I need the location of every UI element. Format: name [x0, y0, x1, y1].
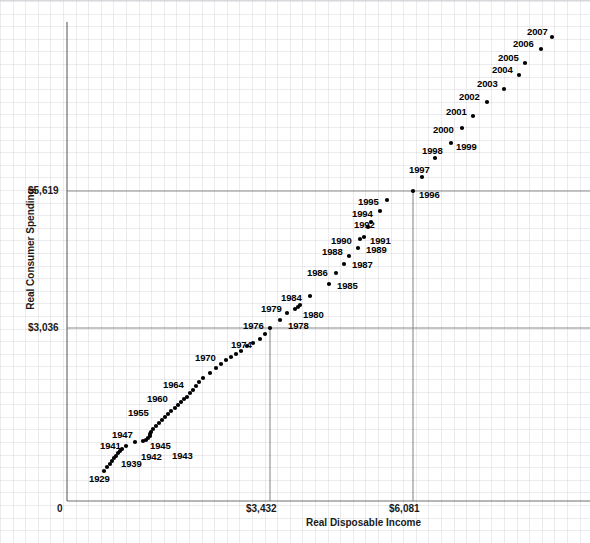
data-point-label: 1984: [281, 293, 302, 303]
data-point: [124, 444, 128, 448]
data-point: [378, 209, 382, 213]
data-point-label: 1942: [141, 452, 162, 462]
data-point-label: 1980: [303, 310, 324, 320]
data-point: [201, 376, 205, 380]
data-point-label: 1964: [163, 380, 184, 390]
data-point-label: 2006: [513, 39, 534, 49]
data-point-label: 1979: [261, 304, 282, 314]
data-point: [356, 246, 360, 250]
data-point: [334, 271, 338, 275]
y-tick-label-3036: $3,036: [28, 323, 59, 333]
data-point: [208, 371, 212, 375]
data-point-label: 1998: [422, 146, 443, 156]
data-point: [471, 114, 475, 118]
data-point: [517, 73, 521, 77]
scatter-chart: 1929193919411942194319451947195519601964…: [0, 0, 590, 543]
data-point-label: 1989: [366, 245, 387, 255]
data-point: [224, 358, 228, 362]
data-point: [308, 294, 312, 298]
data-point: [327, 282, 331, 286]
data-point: [263, 332, 267, 336]
data-point: [550, 35, 554, 39]
data-point-label: 1943: [172, 451, 193, 461]
x-tick-label-6081: $6,081: [389, 504, 420, 514]
data-point-label: 1994: [352, 209, 373, 219]
data-point: [179, 400, 183, 404]
data-point: [285, 311, 289, 315]
data-point-label: 1945: [150, 441, 171, 451]
data-point: [185, 395, 189, 399]
data-point-label: 2005: [498, 53, 519, 63]
x-axis-title: Real Disposable Income: [306, 518, 421, 528]
data-point: [411, 189, 415, 193]
data-point: [502, 87, 506, 91]
data-point-label: 1974: [231, 340, 252, 350]
data-point: [523, 61, 527, 65]
data-point: [160, 418, 164, 422]
data-point-label: 1947: [112, 430, 133, 440]
x-tick-label-origin: 0: [57, 504, 63, 514]
data-point-label: 2007: [527, 27, 548, 37]
data-point-label: 1929: [89, 474, 110, 484]
data-point: [460, 126, 464, 130]
data-point: [362, 235, 366, 239]
data-point: [485, 100, 489, 104]
data-point: [163, 415, 167, 419]
data-point: [105, 465, 109, 469]
data-point-label: 1986: [307, 268, 328, 278]
data-point-label: 2004: [492, 65, 513, 75]
data-point-label: 1978: [288, 321, 309, 331]
data-point: [214, 366, 218, 370]
data-point-label: 1988: [322, 247, 343, 257]
plot-area: [0, 1, 590, 543]
data-point-label: 1997: [409, 165, 430, 175]
data-point: [420, 175, 424, 179]
data-point: [191, 388, 195, 392]
data-point-label: 1955: [128, 408, 149, 418]
data-point: [173, 406, 177, 410]
data-point: [133, 440, 137, 444]
data-point-label: 1991: [370, 236, 391, 246]
data-point: [433, 156, 437, 160]
data-point-label: 1996: [419, 190, 440, 200]
data-point-label: 1941: [100, 441, 121, 451]
axes: [67, 22, 590, 501]
data-point: [229, 355, 233, 359]
data-point: [169, 409, 173, 413]
data-point: [176, 403, 180, 407]
data-point-label: 1970: [195, 353, 216, 363]
data-point: [154, 424, 158, 428]
data-point: [268, 326, 272, 330]
data-point: [539, 47, 543, 51]
data-point: [358, 237, 362, 241]
data-point-label: 2003: [477, 79, 498, 89]
data-point: [188, 391, 192, 395]
data-point: [234, 352, 238, 356]
data-point: [449, 141, 453, 145]
data-point: [157, 421, 161, 425]
data-point: [298, 303, 302, 307]
data-point-label: 1992: [354, 220, 375, 230]
x-tick-label-3432: $3,432: [246, 504, 277, 514]
data-point-label: 1939: [121, 459, 142, 469]
y-axis-title: Real Consumer Spending: [26, 174, 36, 324]
data-point-label: 1990: [331, 236, 352, 246]
data-point-label: 2001: [446, 107, 467, 117]
data-point: [342, 262, 346, 266]
data-point: [385, 198, 389, 202]
data-point-label: 2002: [459, 92, 480, 102]
data-point: [151, 427, 155, 431]
data-point-label: 1999: [456, 142, 477, 152]
data-point-label: 2000: [433, 125, 454, 135]
data-point: [347, 254, 351, 258]
data-point: [197, 380, 201, 384]
data-point: [278, 318, 282, 322]
data-point: [258, 337, 262, 341]
data-point-label: 1995: [358, 197, 379, 207]
data-point-label: 1985: [337, 281, 358, 291]
data-point-label: 1976: [243, 321, 264, 331]
data-point: [219, 362, 223, 366]
data-point: [166, 412, 170, 416]
data-point-label: 1960: [147, 394, 168, 404]
data-point-label: 1987: [352, 260, 373, 270]
